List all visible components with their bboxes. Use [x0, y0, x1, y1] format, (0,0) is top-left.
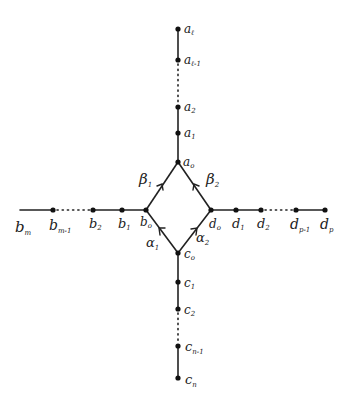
label-d0: do — [209, 217, 221, 232]
label-c1: c1 — [184, 276, 195, 291]
node-b2 — [90, 207, 95, 212]
node-d2 — [258, 207, 263, 212]
label-d2: d2 — [257, 216, 270, 232]
node-c0 — [175, 250, 180, 255]
node-a-l-1 — [175, 57, 180, 62]
node-c2 — [175, 306, 180, 311]
label-a-l-1: aℓ-1 — [184, 53, 201, 68]
label-b-m-1: bm-1 — [49, 217, 71, 235]
label-alpha2: α2 — [196, 230, 210, 247]
label-alpha1: α1 — [146, 235, 159, 252]
label-a2: a2 — [184, 100, 196, 115]
label-beta2: β2 — [205, 170, 220, 189]
node-b-m-1 — [50, 207, 55, 212]
label-d1: d1 — [232, 216, 245, 232]
label-b2: b2 — [89, 216, 102, 232]
label-a0: ao — [183, 155, 194, 170]
node-a0 — [175, 159, 180, 164]
node-a2 — [175, 104, 180, 109]
nodes — [50, 26, 327, 380]
label-b0: bo — [140, 215, 152, 230]
node-a1 — [175, 130, 180, 135]
node-b0 — [143, 207, 148, 212]
quiver-diagram: aℓ aℓ-1 a2 a1 ao bm bm-1 b2 b1 bo do d1 … — [0, 0, 354, 407]
node-d-p-1 — [293, 207, 298, 212]
label-c2: c2 — [184, 303, 196, 318]
node-c1 — [175, 279, 180, 284]
label-d-p: dp — [320, 216, 334, 234]
node-c-n-1 — [175, 343, 180, 348]
label-d-p-1: dp-1 — [290, 216, 310, 234]
label-a-l: aℓ — [184, 22, 194, 37]
node-d0 — [208, 207, 213, 212]
label-c-n: cn — [185, 372, 197, 389]
label-b1: b1 — [118, 216, 131, 232]
label-c0: co — [184, 247, 195, 262]
node-b1 — [119, 207, 124, 212]
node-d1 — [233, 207, 238, 212]
label-b-m: bm — [15, 218, 32, 237]
label-beta1: β1 — [138, 170, 152, 189]
node-c-n — [175, 375, 180, 380]
node-a-l — [175, 26, 180, 31]
label-c-n-1: cn-1 — [185, 339, 204, 356]
node-d-p — [322, 207, 327, 212]
label-a1: a1 — [184, 126, 196, 141]
